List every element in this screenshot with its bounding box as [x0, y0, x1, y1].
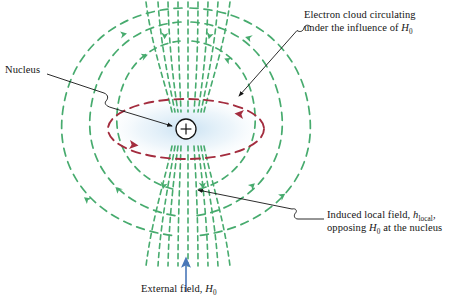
- leader-line-electron-cloud: [239, 25, 311, 96]
- induced-field-line2-suffix: at the nucleus: [380, 222, 442, 233]
- external-field-h-symbol: H: [205, 283, 213, 294]
- electron-cloud-h-subscript: 0: [409, 28, 413, 36]
- induced-field-h0-symbol: H: [369, 222, 377, 233]
- leader-lines-layer: [0, 0, 462, 305]
- label-external-field: External field, H0: [141, 283, 217, 296]
- induced-field-line1: Induced local field, hlocal,: [327, 209, 442, 222]
- induced-field-line2-prefix: opposing: [327, 222, 369, 233]
- magnetic-shielding-diagram: Electron cloud circulating under the inf…: [0, 0, 462, 305]
- induced-field-line1-suffix: ,: [433, 209, 436, 220]
- electron-cloud-line1: Electron cloud circulating: [304, 9, 416, 22]
- induced-field-line1-prefix: Induced local field,: [327, 209, 413, 220]
- electron-cloud-line2: under the influence of H0: [304, 22, 416, 35]
- electron-cloud-line2-prefix: under the influence of: [304, 22, 401, 33]
- nucleus-label-text: Nucleus: [5, 64, 40, 75]
- label-electron-cloud: Electron cloud circulating under the inf…: [304, 9, 416, 34]
- external-field-h-subscript: 0: [213, 289, 217, 297]
- induced-field-line2: opposing H0 at the nucleus: [327, 222, 442, 235]
- label-nucleus: Nucleus: [5, 64, 40, 77]
- leader-line-nucleus: [47, 74, 172, 126]
- leader-line-induced-field: [198, 190, 324, 219]
- electron-cloud-h-symbol: H: [401, 22, 409, 33]
- external-field-prefix: External field,: [141, 283, 205, 294]
- label-induced-field: Induced local field, hlocal, opposing H0…: [327, 209, 442, 234]
